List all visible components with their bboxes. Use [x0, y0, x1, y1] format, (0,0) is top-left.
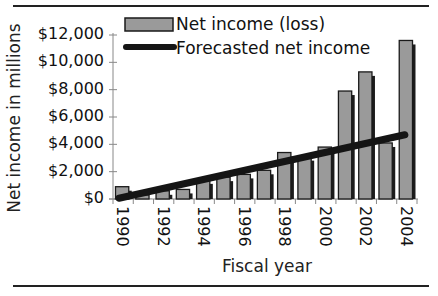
y-tick-label: $12,000 — [24, 24, 104, 43]
bar-net-income — [217, 177, 230, 199]
legend-swatch-bar — [125, 18, 173, 31]
bar-net-income — [359, 72, 372, 199]
bar-net-income — [257, 170, 270, 199]
legend-label-forecast: Forecasted net income — [176, 38, 370, 58]
legend-item-net-income: Net income (loss) — [176, 14, 325, 34]
y-tick-label: $0 — [24, 188, 104, 207]
y-tick-label: $4,000 — [24, 133, 104, 152]
x-tick-label: 2002 — [356, 206, 375, 247]
x-tick-label: 1990 — [113, 206, 132, 247]
bar-net-income — [176, 189, 189, 199]
x-tick-label: 1996 — [235, 206, 254, 247]
bar-net-income — [237, 174, 250, 199]
y-tick-label: $8,000 — [24, 79, 104, 98]
legend-item-forecast: Forecasted net income — [176, 38, 370, 58]
x-tick-label: 1992 — [154, 206, 173, 247]
bar-net-income — [379, 143, 392, 199]
legend-label-net-income: Net income (loss) — [176, 14, 325, 34]
x-axis-title: Fiscal year — [222, 256, 312, 276]
x-tick-label: 1994 — [194, 206, 213, 247]
x-tick-label: 2000 — [316, 206, 335, 247]
y-tick-label: $2,000 — [24, 161, 104, 180]
x-tick-label: 2004 — [397, 206, 416, 247]
x-tick-label: 1998 — [275, 206, 294, 247]
bar-net-income — [399, 40, 412, 199]
y-tick-label: $6,000 — [24, 106, 104, 125]
y-tick-label: $10,000 — [24, 51, 104, 70]
bar-net-income — [298, 157, 311, 199]
y-axis-title: Net income in millions — [3, 28, 25, 208]
